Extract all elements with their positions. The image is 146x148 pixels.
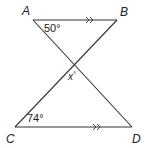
segment-ad <box>33 20 132 127</box>
angle-label-c: 74° <box>27 112 44 124</box>
vertex-label-d: D <box>132 132 141 146</box>
vertex-label-b: B <box>120 5 128 19</box>
angle-label-a: 50° <box>44 22 61 34</box>
diagram-svg: A B C D 50° 74° x° <box>0 0 146 148</box>
angle-label-x: x° <box>67 70 76 82</box>
geometry-diagram: A B C D 50° 74° x° <box>0 0 146 148</box>
vertex-label-c: C <box>6 132 15 146</box>
vertex-label-a: A <box>21 4 30 18</box>
segment-bc <box>15 20 117 127</box>
